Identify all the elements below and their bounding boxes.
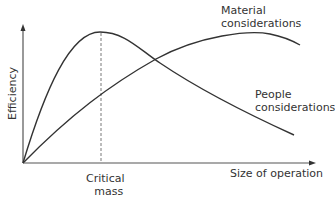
material-considerations-label: Material considerations xyxy=(221,4,301,30)
x-axis-label: Size of operation xyxy=(230,167,323,180)
tick-label-line1: Critical xyxy=(86,172,124,185)
people-label-line1: People xyxy=(255,88,335,101)
y-axis-arrow-icon xyxy=(21,24,26,31)
people-considerations-curve xyxy=(23,32,294,163)
y-axis-label: Efficiency xyxy=(6,67,19,120)
critical-mass-tick-label: Critical mass xyxy=(86,172,124,198)
y-axis xyxy=(21,24,26,163)
x-axis-arrow-icon xyxy=(309,161,316,166)
material-label-line2: considerations xyxy=(221,17,301,30)
x-axis xyxy=(23,161,316,166)
material-label-line1: Material xyxy=(221,4,301,17)
people-considerations-label: People considerations xyxy=(255,88,335,114)
tick-label-line2: mass xyxy=(86,185,124,198)
people-label-line2: considerations xyxy=(255,101,335,114)
